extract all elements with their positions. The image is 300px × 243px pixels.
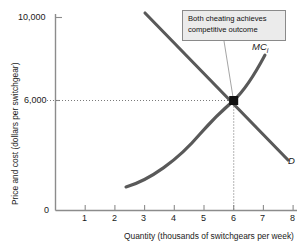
y-axis-title: Price and cost (dollars per switchgear): [10, 63, 20, 205]
annotation-line-2: competitive outcome: [188, 25, 281, 36]
x-tick-label-7: 7: [260, 213, 265, 223]
marginal-cost-curve: [126, 55, 265, 187]
x-tick-label-6: 6: [231, 213, 236, 223]
equilibrium-marker: [229, 96, 238, 105]
annotation-line-1: Both cheating achieves: [188, 14, 281, 25]
x-tick-label-2: 2: [112, 213, 117, 223]
x-tick-label-3: 3: [141, 213, 146, 223]
x-tick-label-8: 8: [290, 213, 295, 223]
y-tick-label-0: 0: [44, 205, 49, 215]
chart-figure: 10,000 6,000 0 1 2 3 4 5 6 7 8 Price and…: [0, 0, 300, 243]
y-tick-label-10000: 10,000: [18, 12, 46, 22]
annotation-leader-line: [224, 41, 233, 99]
x-tick-label-4: 4: [171, 213, 176, 223]
x-tick-label-1: 1: [82, 213, 87, 223]
mc-curve-label: MCi: [252, 41, 268, 54]
mc-curve-label-base: MC: [252, 41, 267, 52]
demand-curve-label: D: [288, 155, 295, 166]
annotation-callout: Both cheating achieves competitive outco…: [182, 10, 286, 41]
mc-curve-label-subscript: i: [267, 47, 269, 54]
x-tick-label-5: 5: [201, 213, 206, 223]
x-axis-title: Quantity (thousands of switchgears per w…: [124, 231, 294, 241]
y-tick-label-6000: 6,000: [24, 95, 47, 105]
